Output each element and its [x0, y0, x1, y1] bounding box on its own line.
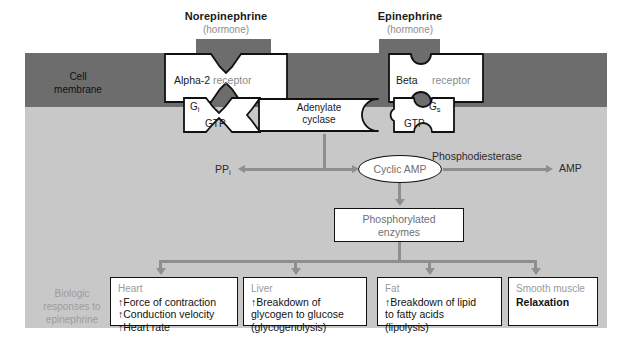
response-title-liver: Liver — [251, 283, 362, 296]
connector-cyclase-down — [323, 134, 326, 170]
arrow-to-amp — [546, 165, 553, 173]
response-line-heart-1: ↑Force of contraction — [118, 296, 233, 309]
g-protein-s-subscript: s — [437, 105, 441, 114]
amp-label: AMP — [559, 162, 582, 174]
g-protein-i-label: Gi — [190, 101, 199, 114]
response-box-heart: Heart ↑Force of contraction ↑Conduction … — [110, 277, 238, 326]
hormone-epinephrine-name: Epinephrine — [358, 10, 462, 22]
figure-canvas: Cell membrane Biologic responses to epin… — [0, 0, 628, 355]
phosphorylated-enzymes-line1: Phosphorylated — [335, 213, 463, 226]
response-line-fat-1: ↑Breakdown of lipid — [385, 296, 497, 309]
g-protein-s-label: Gs — [429, 101, 441, 114]
response-box-liver: Liver ↑Breakdown of glycogen to glucose … — [243, 277, 367, 326]
cyclic-amp-node: Cyclic AMP — [358, 155, 442, 183]
biologic-responses-label: Biologic responses to epinephrine — [22, 287, 122, 326]
connector-camp-to-amp — [443, 168, 548, 171]
adenylate-cyclase-line1: Adenylate — [262, 102, 376, 113]
connector-enzymes-down — [398, 242, 401, 262]
response-line-smooth-muscle-1: Relaxation — [516, 296, 593, 309]
phosphodiesterase-label: Phosphodiesterase — [432, 150, 522, 162]
ppi-subscript: i — [229, 168, 231, 177]
arrow-to-fat-box — [425, 268, 435, 275]
hormone-epinephrine-sublabel: (hormone) — [358, 24, 462, 35]
cell-membrane-label: Cell membrane — [30, 70, 126, 96]
beta-receptor-suffix: receptor — [432, 74, 471, 86]
response-box-smooth-muscle: Smooth muscle Relaxation — [508, 277, 598, 326]
response-line-liver-3: (glycogenolysis) — [251, 321, 362, 334]
g-protein-s-gtp: GTP — [404, 118, 425, 129]
connector-response-bus — [160, 260, 535, 263]
arrow-to-phosphorylated-enzymes — [395, 199, 405, 206]
response-line-fat-3: (lipolysis) — [385, 321, 497, 334]
arrow-to-ppi — [238, 165, 245, 173]
response-line-heart-2: ↑Conduction velocity — [118, 308, 233, 321]
hormone-norepinephrine-sublabel: (hormone) — [168, 24, 284, 35]
alpha-2-receptor-suffix: receptor — [213, 74, 252, 86]
arrow-to-heart-box — [156, 268, 166, 275]
response-box-fat: Fat ↑Breakdown of lipid to fatty acids (… — [377, 277, 502, 326]
g-protein-i-subscript: i — [198, 105, 200, 114]
ppi-label: PPi — [215, 163, 231, 177]
hormone-norepinephrine-name: Norepinephrine — [168, 10, 284, 22]
phosphorylated-enzymes-line2: enzymes — [335, 226, 463, 239]
connector-split-horizontal — [245, 168, 355, 171]
beta-receptor-name: Beta — [396, 74, 418, 86]
arrow-to-smooth-muscle-box — [531, 268, 541, 275]
arrow-to-liver-box — [291, 268, 301, 275]
response-line-liver-1: ↑Breakdown of — [251, 296, 362, 309]
response-line-liver-2: glycogen to glucose — [251, 308, 362, 321]
phosphorylated-enzymes-box: Phosphorylated enzymes — [334, 208, 464, 242]
response-title-heart: Heart — [118, 283, 233, 296]
response-line-fat-2: to fatty acids — [385, 308, 497, 321]
adenylate-cyclase-line2: cyclase — [262, 114, 376, 125]
response-line-heart-3: ↑Heart rate — [118, 321, 233, 334]
alpha-2-receptor-name: Alpha-2 — [174, 74, 210, 86]
response-title-smooth-muscle: Smooth muscle — [516, 283, 593, 296]
response-title-fat: Fat — [385, 283, 497, 296]
g-protein-i-gtp: GTP — [205, 118, 226, 129]
